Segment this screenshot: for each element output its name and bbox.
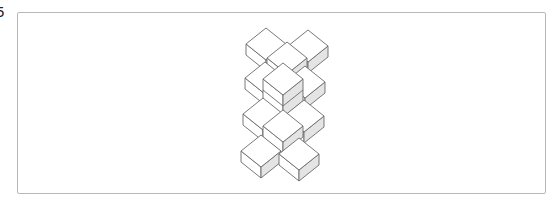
cube-lattice-diagram <box>0 0 557 206</box>
